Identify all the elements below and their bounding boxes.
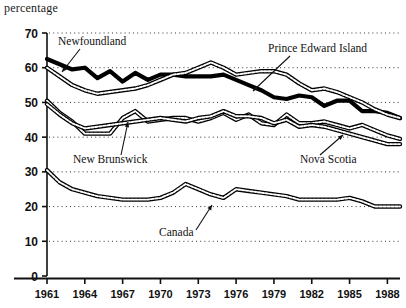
series-outline-canada (47, 170, 400, 206)
x-tick-label: 1988 (375, 288, 399, 300)
chart-plot-area: 010203040506070 196119641967197019731976… (0, 0, 406, 308)
y-tick-label: 10 (25, 235, 39, 249)
y-axis-ticks: 010203040506070 (25, 27, 47, 284)
gridlines (49, 33, 400, 241)
y-tick-label: 30 (25, 165, 39, 179)
x-tick-label: 1964 (73, 288, 98, 300)
y-tick-label: 50 (25, 96, 39, 110)
data-series-layer (47, 59, 400, 207)
x-tick-label: 1961 (35, 288, 59, 300)
annotation-arrowhead (207, 205, 212, 210)
series-outline-nova-scotia (47, 104, 400, 144)
y-tick-label: 0 (31, 270, 38, 284)
x-tick-label: 1967 (110, 288, 134, 300)
x-tick-label: 1985 (337, 288, 361, 300)
series-label-newfoundland: Newfoundland (58, 35, 127, 47)
y-tick-label: 60 (25, 61, 39, 75)
series-label-new-brunswick: New Brunswick (73, 153, 148, 165)
y-tick-label: 20 (25, 200, 39, 214)
y-tick-label: 70 (25, 27, 39, 41)
series-line-canada (47, 170, 400, 206)
y-tick-label: 40 (25, 131, 39, 145)
x-tick-label: 1970 (148, 288, 172, 300)
line-chart: percentage 010203040506070 1961196419671… (0, 0, 406, 308)
x-tick-label: 1979 (262, 288, 286, 300)
x-tick-label: 1982 (300, 288, 324, 300)
x-tick-label: 1976 (224, 288, 248, 300)
x-axis-ticks: 1961196419671970197319761979198219851988 (35, 279, 400, 301)
annotation-leader-line (121, 122, 128, 155)
series-label-canada: Canada (159, 226, 193, 238)
series-label-prince-edward-island: Prince Edward Island (268, 42, 367, 54)
x-tick-label: 1973 (186, 288, 210, 300)
series-label-nova-scotia: Nova Scotia (300, 153, 357, 165)
